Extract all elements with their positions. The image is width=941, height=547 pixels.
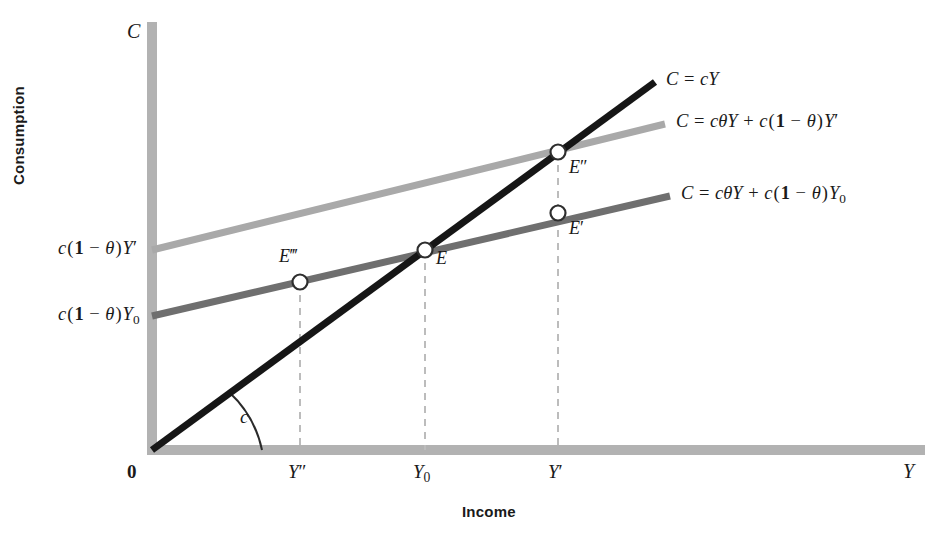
y-axis-title: Consumption bbox=[10, 86, 27, 185]
x-axis-bar bbox=[147, 445, 925, 455]
consumption-income-figure: C Y 0 Y″ Y0 Y′ c(1 − θ)Y′ c(1 − θ)Y0 c C… bbox=[0, 0, 941, 547]
x-tick-label-y-zero: Y0 bbox=[413, 462, 430, 485]
y-axis-letter: C bbox=[127, 21, 140, 41]
marker-E-triple-prime[interactable] bbox=[293, 275, 308, 290]
y-intercept-label-lower: c(1 − θ)Y0 bbox=[58, 305, 140, 326]
x-axis-title: Income bbox=[462, 503, 516, 520]
y-axis-bar bbox=[147, 22, 157, 455]
line-light-grey bbox=[152, 124, 665, 250]
y-intercept-label-upper: c(1 − θ)Y′ bbox=[58, 239, 136, 258]
dashed-guide-group bbox=[300, 152, 558, 450]
point-label-E-prime: E′ bbox=[569, 219, 583, 237]
line-dark-grey bbox=[152, 196, 670, 316]
point-label-E-triple-prime: E‴ bbox=[279, 247, 297, 265]
marker-E[interactable] bbox=[418, 243, 433, 258]
line-equation-label-cY: C = cY bbox=[666, 70, 719, 89]
line-equation-label-base-income: C = cθY + c(1 − θ)Y0 bbox=[681, 184, 846, 205]
plot-canvas bbox=[0, 0, 941, 547]
x-tick-label-y-double-prime: Y″ bbox=[288, 462, 306, 481]
point-label-E: E bbox=[436, 249, 447, 267]
point-label-E-double-prime: E″ bbox=[569, 158, 587, 176]
origin-label: 0 bbox=[127, 462, 137, 481]
angle-label-c: c bbox=[240, 407, 248, 426]
x-axis-letter: Y bbox=[903, 461, 914, 481]
line-black-cY bbox=[152, 82, 655, 450]
equilibrium-point-markers bbox=[293, 145, 566, 290]
marker-E-prime[interactable] bbox=[551, 206, 566, 221]
x-tick-label-y-prime: Y′ bbox=[548, 462, 562, 481]
line-equation-label-high-income: C = cθY + c(1 − θ)Y′ bbox=[676, 112, 838, 131]
marker-E-double-prime[interactable] bbox=[551, 145, 566, 160]
